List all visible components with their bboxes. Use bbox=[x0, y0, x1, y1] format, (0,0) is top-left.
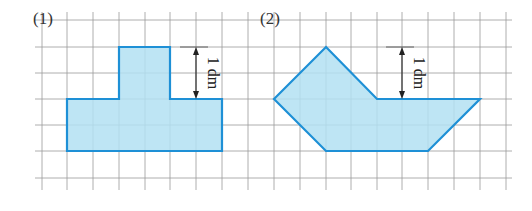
dimension-label: 1 dm bbox=[411, 57, 428, 90]
figure-label-2: (2) bbox=[260, 10, 280, 27]
arrow-up-icon bbox=[193, 47, 199, 55]
arrow-down-icon bbox=[399, 91, 405, 99]
shapes: 1 dm1 dm bbox=[67, 47, 480, 151]
arrow-up-icon bbox=[399, 47, 405, 55]
grid-figure: 1 dm1 dm bbox=[0, 0, 532, 211]
dimension-label: 1 dm bbox=[205, 57, 222, 90]
arrow-down-icon bbox=[193, 91, 199, 99]
figure-label-1: (1) bbox=[33, 10, 53, 27]
